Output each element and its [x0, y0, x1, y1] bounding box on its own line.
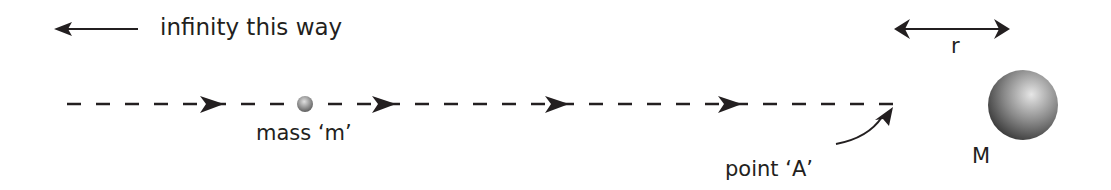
- infinity-arrow-icon: [54, 22, 138, 36]
- small-mass-sphere: [297, 96, 313, 112]
- small-mass-label: mass ‘m’: [256, 121, 352, 145]
- point-a-pointer-arrow: [836, 107, 893, 144]
- distance-r-label: r: [951, 34, 960, 58]
- infinity-label: infinity this way: [160, 14, 342, 40]
- big-mass-sphere: [988, 70, 1058, 140]
- big-mass-label: M: [972, 144, 990, 168]
- point-a-label: point ‘A’: [725, 157, 813, 181]
